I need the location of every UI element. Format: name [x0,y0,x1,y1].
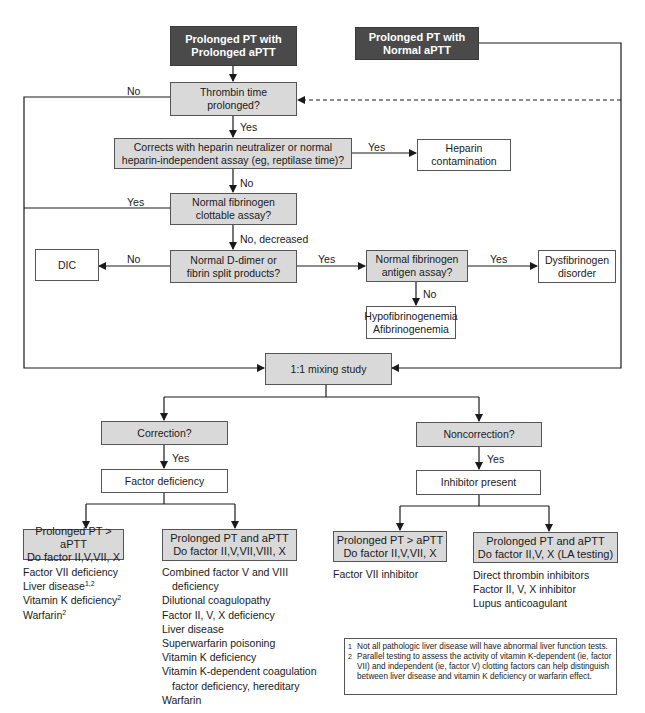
list-inhibitor-pt-and-aptt: Direct thrombin inhibitors Factor II, V,… [473,568,589,611]
start-node-prolonged-pt-prolonged-aptt: Prolonged PT with Prolonged aPTT [170,26,297,66]
outcome-hypofibrinogenemia: Hypofibrinogenemia Afibrinogenemia [366,306,456,339]
edge-label-heparin-yes: Yes [368,141,385,153]
edge-label-thrombin-no: No [127,85,140,97]
list-item: Vitamin K deficiency2 [23,593,121,607]
edge-label-fibrinogen-no: No, decreased [240,233,308,245]
list-item: Factor VII inhibitor [333,567,418,581]
test-deficiency-pt-and-aptt: Prolonged PT and aPTT Do factor II,V,VII… [162,529,297,561]
list-item: Lupus anticoagulant [473,596,589,610]
decision-noncorrection: Noncorrection? [416,422,542,447]
test-inhibitor-pt-and-aptt: Prolonged PT and aPTT Do factor II,V, X … [473,532,618,563]
decision-ddimer: Normal D-dimer or fibrin split products? [170,250,297,283]
list-item: Factor II, V, X inhibitor [473,582,589,596]
footnote-1: 1 Not all pathologic liver disease will … [357,642,612,652]
edge-label-ddimer-yes: Yes [318,253,335,265]
decision-fibrinogen-antigen: Normal fibrinogen antigen assay? [366,250,468,282]
list-item: Factor VII deficiency [23,565,121,579]
list-item: Warfarin2 [23,608,121,622]
list-item: Warfarin [162,693,317,707]
edge-label-heparin-no: No [240,177,253,189]
start-node-prolonged-pt-normal-aptt: Prolonged PT with Normal aPTT [355,27,479,60]
outcome-dic: DIC [35,249,99,281]
edge-label-thrombin-yes: Yes [240,121,257,133]
decision-mixing-study: 1:1 mixing study [265,353,392,385]
decision-thrombin-time: Thrombin time prolonged? [170,82,297,116]
list-item: deficiency [162,579,317,593]
decision-correction: Correction? [101,421,228,445]
list-item: Vitamin K-dependent coagulation [162,664,317,678]
list-item: Superwarfarin poisoning [162,636,317,650]
list-item: factor deficiency, hereditary [162,679,317,693]
list-item: Factor II, V, X deficiency [162,608,317,622]
outcome-factor-deficiency: Factor deficiency [101,469,228,493]
edge-label-fibrinogen-yes: Yes [127,196,144,208]
list-item: Liver disease [162,622,317,636]
list-deficiency-pt-and-aptt: Combined factor V and VIII deficiency Di… [162,565,317,707]
test-deficiency-pt-gt-aptt: Prolonged PT > aPTT Do factor II,V,VII, … [23,529,124,560]
list-item: Direct thrombin inhibitors [473,568,589,582]
outcome-dysfibrinogen: Dysfibrinogen disorder [538,250,616,283]
footnotes-box: 1 Not all pathologic liver disease will … [344,638,617,695]
decision-fibrinogen-clottable: Normal fibrinogen clottable assay? [170,193,297,225]
footnote-2: 2 Parallel testing to assess the activit… [357,652,612,682]
edge-label-antigen-no: No [423,288,436,300]
list-deficiency-pt-gt-aptt: Factor VII deficiency Liver disease1,2 V… [23,565,121,622]
list-item: Dilutional coagulopathy [162,593,317,607]
list-inhibitor-pt-gt-aptt: Factor VII inhibitor [333,567,418,581]
outcome-heparin-contamination: Heparin contamination [417,139,511,171]
list-item: Vitamin K deficiency [162,650,317,664]
test-inhibitor-pt-gt-aptt: Prolonged PT > aPTT Do factor II,V,VII, … [333,531,447,562]
edge-label-antigen-yes: Yes [490,253,507,265]
list-item: Combined factor V and VIII [162,565,317,579]
list-item: Liver disease1,2 [23,579,121,593]
outcome-inhibitor-present: Inhibitor present [416,470,541,495]
edge-label-ddimer-no: No [127,253,140,265]
edge-label-noncorrection-yes: Yes [487,453,504,465]
decision-heparin-neutralizer: Corrects with heparin neutralizer or nor… [114,138,352,169]
edge-label-correction-yes: Yes [172,452,189,464]
